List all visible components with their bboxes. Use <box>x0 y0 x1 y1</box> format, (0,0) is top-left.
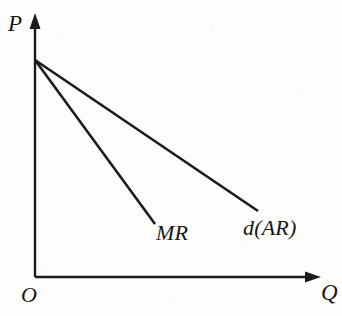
economics-diagram: P Q O MR d(AR) <box>0 0 342 316</box>
demand-average-revenue-curve-label: d(AR) <box>243 217 297 239</box>
origin-label: O <box>21 284 37 306</box>
quantity-axis-label: Q <box>321 281 338 304</box>
demand-average-revenue-curve <box>35 60 258 211</box>
quantity-axis-arrow-icon <box>305 272 321 283</box>
plot-canvas <box>0 0 342 316</box>
marginal-revenue-curve-label: MR <box>156 222 188 244</box>
price-axis-label: P <box>8 12 22 35</box>
price-axis-arrow-icon <box>30 13 41 29</box>
marginal-revenue-curve <box>35 60 155 224</box>
